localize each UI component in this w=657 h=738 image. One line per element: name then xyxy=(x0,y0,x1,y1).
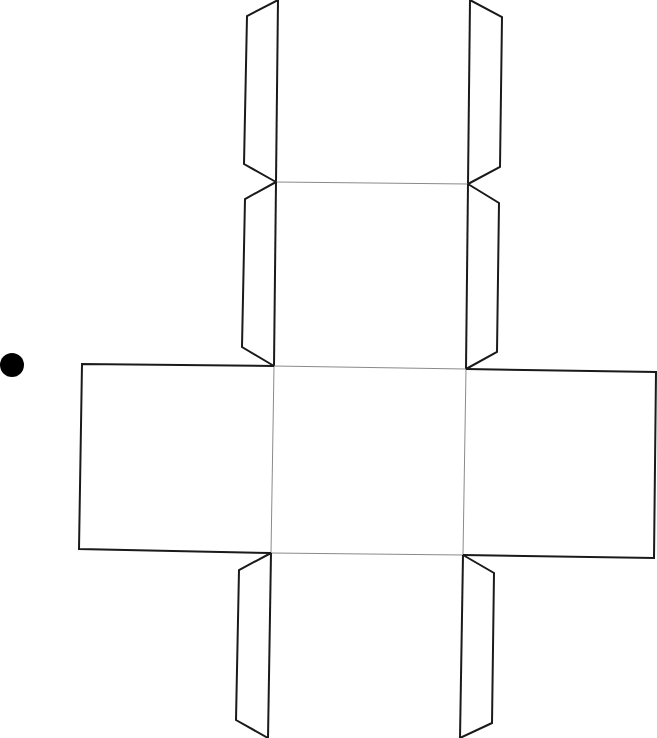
face-upper-middle xyxy=(274,182,468,369)
glue-tab-bottom-left xyxy=(236,553,271,738)
face-center xyxy=(271,366,466,555)
glue-tab-top-right xyxy=(468,0,502,184)
fold-line-2 xyxy=(274,366,466,369)
face-top xyxy=(276,0,470,184)
face-right xyxy=(463,369,656,558)
glue-tab-bottom-right xyxy=(460,555,494,738)
cube-net-diagram xyxy=(0,0,657,738)
fold-line-3 xyxy=(271,553,463,555)
face-bottom xyxy=(268,553,463,738)
glue-tab-upper-right xyxy=(466,184,499,369)
glue-tab-top-left xyxy=(244,0,278,182)
marker-dot xyxy=(0,353,24,377)
face-left xyxy=(79,364,274,553)
fold-line-1 xyxy=(276,182,468,184)
glue-tab-upper-left xyxy=(242,182,276,366)
